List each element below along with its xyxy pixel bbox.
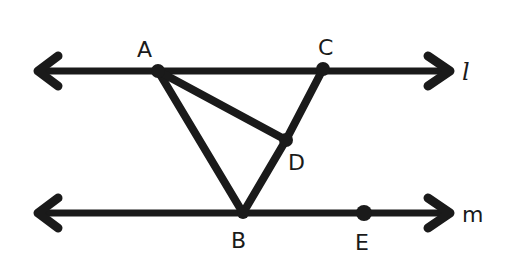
label-e: E [355, 230, 369, 255]
label-a: A [137, 37, 152, 62]
segment-db [243, 140, 286, 213]
line-l [38, 56, 450, 86]
label-b: B [231, 228, 246, 253]
segments [158, 69, 323, 213]
point-b [237, 207, 249, 219]
segment-cd [286, 69, 323, 140]
label-line-m: m [462, 202, 483, 227]
point-c [316, 62, 330, 76]
geometry-diagram: A C D B E l m [0, 0, 506, 265]
point-e [356, 205, 372, 221]
point-d [279, 133, 293, 147]
label-line-l: l [462, 58, 470, 86]
label-d: D [288, 150, 305, 175]
point-a [151, 64, 165, 78]
label-c: C [318, 35, 333, 60]
